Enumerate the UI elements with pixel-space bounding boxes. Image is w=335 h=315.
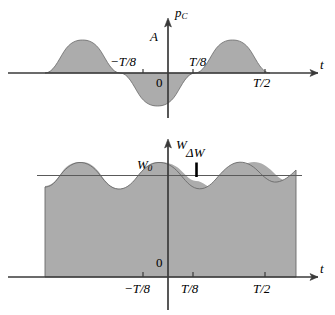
- top-y-axis-label: pC: [175, 6, 188, 19]
- bottom-panel: [8, 139, 318, 310]
- bottom-tick-label-t8: T/8: [181, 282, 198, 295]
- bottom-mean-label-base: W: [137, 157, 148, 172]
- delta-w-label: ΔW: [186, 146, 204, 159]
- top-y-axis-label-base: p: [175, 5, 182, 20]
- top-amplitude-label: A: [150, 30, 158, 43]
- figure-container: pC t A 0 −T/8 T/8 T/2 W t W0 ΔW 0 −T/8 T…: [0, 0, 335, 315]
- top-tick-label-minus-t8: −T/8: [110, 55, 136, 68]
- top-y-axis-label-sub: C: [182, 11, 188, 21]
- figure-canvas: [0, 0, 335, 315]
- bottom-mean-label: W0: [137, 158, 152, 171]
- top-tick-label-t8: T/8: [189, 55, 206, 68]
- bottom-tick-label-t2: T/2: [253, 282, 270, 295]
- top-origin-label: 0: [156, 76, 163, 89]
- bottom-tick-label-minus-t8: −T/8: [124, 282, 150, 295]
- bottom-x-axis-label: t: [320, 262, 324, 275]
- bottom-mean-label-sub: 0: [148, 163, 153, 173]
- top-x-axis-label: t: [320, 58, 324, 71]
- top-tick-label-t2: T/2: [253, 76, 270, 89]
- bottom-area-fill: [45, 162, 296, 277]
- bottom-origin-label: 0: [156, 256, 163, 269]
- top-panel: [8, 18, 318, 118]
